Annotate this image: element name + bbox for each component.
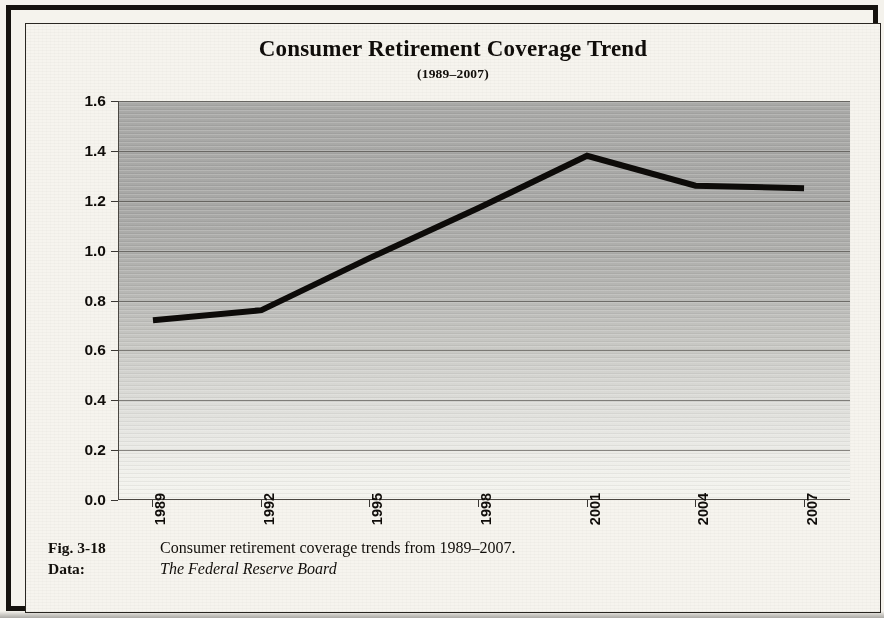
- caption-figure-text: Consumer retirement coverage trends from…: [160, 537, 515, 558]
- x-axis-label: 1998: [478, 493, 494, 525]
- y-axis-label: 0.8: [84, 292, 106, 310]
- caption-row-data: Data: The Federal Reserve Board: [48, 558, 862, 579]
- x-axis-label: 1995: [369, 493, 385, 525]
- y-axis-label: 1.0: [84, 242, 106, 260]
- caption-figure-label: Fig. 3-18: [48, 538, 160, 558]
- data-series-line: [119, 101, 850, 499]
- caption-row-figure: Fig. 3-18 Consumer retirement coverage t…: [48, 537, 862, 558]
- y-axis-label: 1.2: [84, 192, 106, 210]
- y-tick-mark: [111, 450, 118, 451]
- y-tick-mark: [111, 400, 118, 401]
- figure-root: Consumer Retirement Coverage Trend (1989…: [0, 0, 884, 618]
- plot-area: [118, 101, 850, 500]
- y-axis-label: 0.0: [84, 491, 106, 509]
- y-axis-label: 1.6: [84, 92, 106, 110]
- y-axis-label: 0.6: [84, 341, 106, 359]
- x-axis-label: 2007: [804, 493, 820, 525]
- y-tick-mark: [111, 201, 118, 202]
- x-axis-label: 2001: [587, 493, 603, 525]
- y-tick-mark: [111, 350, 118, 351]
- y-axis-label: 1.4: [84, 142, 106, 160]
- figure-outer-border: Consumer Retirement Coverage Trend (1989…: [6, 5, 878, 611]
- y-tick-mark: [111, 151, 118, 152]
- y-tick-mark: [111, 500, 118, 501]
- plot-wrapper: 0.00.20.40.60.81.01.21.41.6 198919921995…: [118, 101, 850, 500]
- figure-caption: Fig. 3-18 Consumer retirement coverage t…: [48, 537, 862, 580]
- x-axis-label: 1992: [261, 493, 277, 525]
- chart-title: Consumer Retirement Coverage Trend: [26, 36, 880, 62]
- figure-inner-border: Consumer Retirement Coverage Trend (1989…: [25, 23, 881, 613]
- y-axis-label: 0.2: [84, 441, 106, 459]
- chart-subtitle: (1989–2007): [26, 66, 880, 82]
- caption-data-source: The Federal Reserve Board: [160, 558, 337, 579]
- y-tick-mark: [111, 251, 118, 252]
- x-axis-label: 1989: [152, 493, 168, 525]
- y-tick-mark: [111, 101, 118, 102]
- y-tick-mark: [111, 301, 118, 302]
- caption-data-label: Data:: [48, 559, 160, 579]
- x-axis-label: 2004: [695, 493, 711, 525]
- y-axis-label: 0.4: [84, 391, 106, 409]
